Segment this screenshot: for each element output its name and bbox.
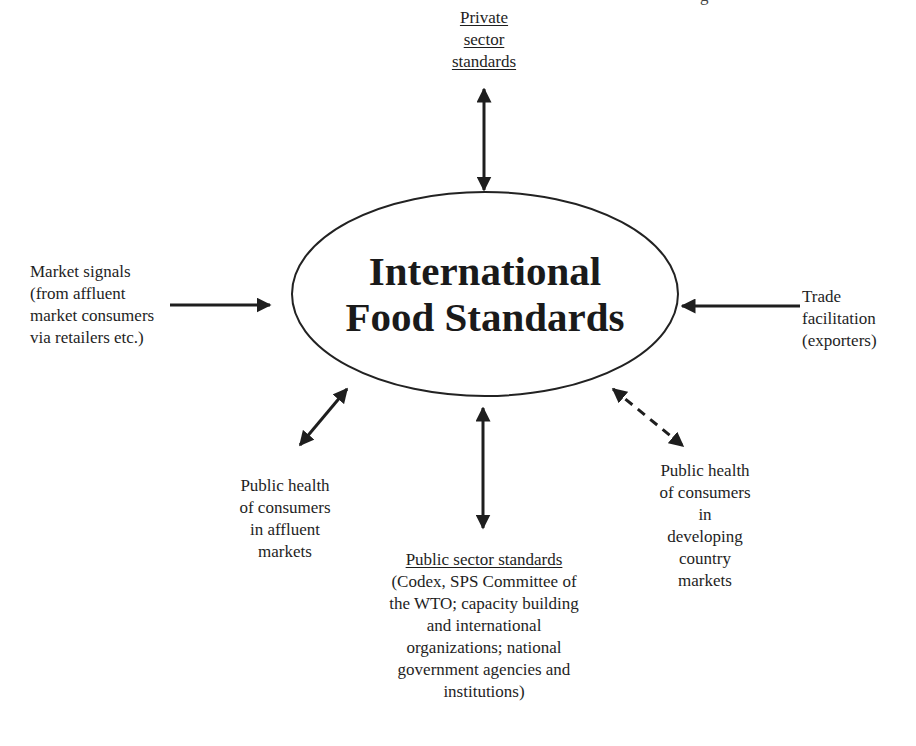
node-top-line: standards	[434, 51, 534, 73]
node-left-line: via retailers etc.)	[30, 327, 180, 349]
node-bottom-right-line: of consumers	[650, 482, 760, 504]
arrow-bottom-left-bidirectional	[300, 389, 347, 445]
node-right-line: Trade	[802, 286, 912, 308]
node-right-line: (exporters)	[802, 330, 912, 352]
node-bottom-left-line: in affluent	[220, 519, 350, 541]
node-public-sector-standards: Public sector standards (Codex, SPS Comm…	[378, 549, 590, 703]
center-title: International Food Standards	[291, 192, 679, 396]
node-right-line: facilitation	[802, 308, 912, 330]
node-bottom-left-line: of consumers	[220, 497, 350, 519]
node-bottom-right-line: in	[650, 504, 760, 526]
node-public-health-developing: Public health of consumers in developing…	[650, 460, 760, 592]
node-left-line: market consumers	[30, 305, 180, 327]
node-trade-facilitation: Trade facilitation (exporters)	[802, 286, 912, 352]
node-bottom-line: and international	[378, 615, 590, 637]
node-bottom-right-line: markets	[650, 570, 760, 592]
node-top-line: sector	[434, 29, 534, 51]
center-title-line-1: International	[369, 248, 601, 294]
node-bottom-line: government agencies and	[378, 659, 590, 681]
node-bottom-left-line: Public health	[220, 475, 350, 497]
node-bottom-right-line: developing	[650, 526, 760, 548]
node-bottom-right-line: Public health	[650, 460, 760, 482]
node-bottom-line: institutions)	[378, 681, 590, 703]
node-market-signals: Market signals (from affluent market con…	[30, 261, 180, 349]
arrow-bottom-right-dashed	[613, 389, 683, 446]
node-bottom-heading: Public sector standards	[378, 549, 590, 571]
node-bottom-line: the WTO; capacity building	[378, 593, 590, 615]
node-bottom-right-line: country	[650, 548, 760, 570]
node-bottom-line: organizations; national	[378, 637, 590, 659]
node-left-line: (from affluent	[30, 283, 180, 305]
node-public-health-affluent: Public health of consumers in affluent m…	[220, 475, 350, 563]
node-top-line: Private	[434, 7, 534, 29]
node-bottom-line: (Codex, SPS Committee of	[378, 571, 590, 593]
node-left-line: Market signals	[30, 261, 180, 283]
center-title-line-2: Food Standards	[345, 294, 624, 340]
node-private-sector-standards: Private sector standards	[434, 7, 534, 73]
node-bottom-left-line: markets	[220, 541, 350, 563]
